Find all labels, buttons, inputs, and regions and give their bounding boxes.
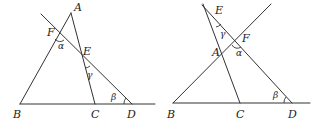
label-d: D <box>126 108 136 121</box>
label-e: E <box>214 4 223 17</box>
right-figure: E γ F A α β B C D <box>166 4 310 121</box>
label-c: C <box>236 108 245 121</box>
label-f: F <box>241 32 250 45</box>
left-figure: A F α E γ β B C D <box>12 1 155 121</box>
label-gamma: γ <box>220 29 226 39</box>
label-alpha: α <box>58 41 64 51</box>
segment-ab <box>20 13 71 104</box>
angle-beta-arc <box>284 97 286 103</box>
label-gamma: γ <box>87 70 93 80</box>
label-a: A <box>211 46 220 59</box>
segment-ac <box>71 13 95 104</box>
label-alpha: α <box>236 48 242 58</box>
label-beta: β <box>110 92 116 102</box>
label-e: E <box>82 45 91 58</box>
label-f: F <box>46 26 55 39</box>
label-a: A <box>73 1 82 14</box>
line-fd <box>41 14 132 104</box>
label-beta: β <box>272 90 278 100</box>
angle-beta-arc <box>124 98 126 104</box>
line-ce-extended <box>203 4 240 103</box>
label-b: B <box>12 108 21 121</box>
label-c: C <box>91 108 100 121</box>
label-b: B <box>166 108 175 121</box>
diagram-canvas: A F α E γ β B C D E γ F A α β B C D <box>0 0 317 133</box>
label-d: D <box>287 108 297 121</box>
